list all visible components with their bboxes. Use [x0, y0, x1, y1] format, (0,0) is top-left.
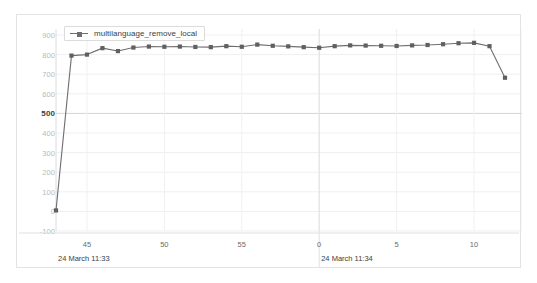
series-data-point: [302, 45, 306, 49]
series-data-point: [333, 44, 337, 48]
series-data-point: [193, 45, 197, 49]
series-data-point: [54, 208, 58, 212]
series-data-point: [379, 44, 383, 48]
series-data-point: [348, 43, 352, 47]
series-data-point: [286, 44, 290, 48]
x-tick-label: 5: [395, 240, 399, 249]
series-data-point: [487, 44, 491, 48]
x-tick-label: 50: [160, 240, 168, 249]
x-tick-label: 55: [238, 240, 246, 249]
x-tick-label: 10: [470, 240, 478, 249]
series-data-point: [271, 44, 275, 48]
series-data-point: [100, 46, 104, 50]
series-data-point: [162, 45, 166, 49]
x-axis-group-label: 24 March 11:33: [58, 254, 110, 263]
series-line: [56, 43, 505, 211]
series-data-point: [147, 44, 151, 48]
series-data-point: [503, 76, 507, 80]
series-data-point: [472, 41, 476, 45]
series-data-point: [85, 53, 89, 57]
series-data-point: [441, 42, 445, 46]
series-data-point: [395, 44, 399, 48]
legend-label: multilanguage_remove_local: [94, 29, 197, 38]
chart-svg: [17, 15, 522, 269]
series-data-point: [456, 41, 460, 45]
series-data-point: [178, 44, 182, 48]
series-data-point: [425, 43, 429, 47]
chart-card: 9008007006005004003002001000-100 4550550…: [16, 14, 521, 268]
series-data-point: [209, 45, 213, 49]
x-tick-label: 45: [83, 240, 91, 249]
series-data-point: [317, 46, 321, 50]
series-data-point: [224, 44, 228, 48]
series-data-point: [410, 43, 414, 47]
x-axis-group-label: 24 March 11:34: [321, 254, 373, 263]
series-data-point: [69, 53, 73, 57]
screenshot-root: 9008007006005004003002001000-100 4550550…: [0, 0, 537, 283]
plot-area: [17, 15, 520, 267]
series-data-point: [131, 45, 135, 49]
series-data-point: [116, 49, 120, 53]
series-data-point: [255, 43, 259, 47]
chart-legend[interactable]: multilanguage_remove_local: [64, 26, 205, 41]
legend-marker-icon: [70, 29, 88, 38]
series-data-point: [240, 45, 244, 49]
x-tick-label: 0: [317, 240, 321, 249]
series-data-point: [364, 43, 368, 47]
